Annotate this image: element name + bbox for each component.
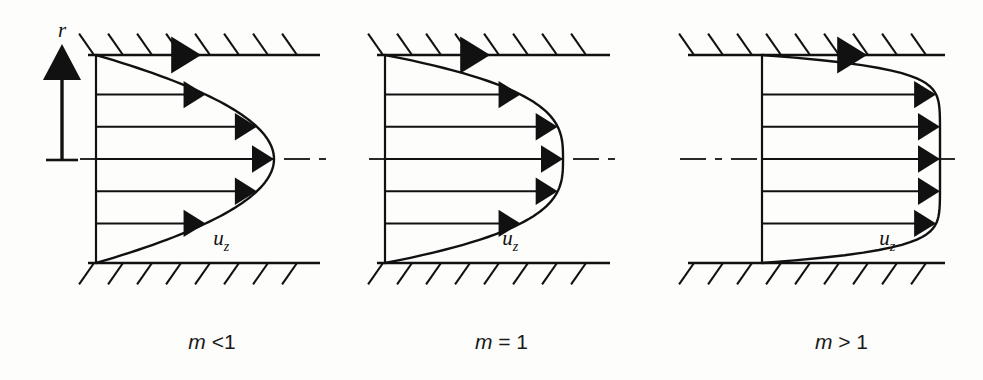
wall-hatch-stroke [766, 34, 781, 55]
ordinate-axis-group: r [43, 18, 81, 160]
wall-hatch-stroke [253, 263, 268, 284]
wall-hatch-stroke [824, 34, 839, 55]
wall-hatch-stroke [484, 34, 499, 55]
wall-hatch-stroke [426, 34, 441, 55]
velocity-vector-arrowhead [536, 178, 558, 205]
wall-hatch-stroke [513, 34, 528, 55]
velocity-vector-arrowhead [536, 113, 558, 140]
wall-hatch-stroke [484, 263, 499, 284]
velocity-vector-arrowhead [252, 145, 274, 172]
velocity-vector-arrowhead [914, 210, 936, 237]
velocity-vector-arrowhead [918, 113, 940, 140]
wall-hatch-stroke [911, 34, 926, 55]
wall-hatch-stroke [224, 34, 239, 55]
wall-hatch-stroke [737, 34, 752, 55]
top-wall [368, 34, 610, 55]
r-axis-arrowhead [43, 44, 81, 80]
wall-hatch-stroke [282, 34, 297, 55]
wall-hatch-stroke [368, 34, 383, 55]
velocity-vector-arrowhead [837, 36, 867, 73]
wall-hatch-stroke [195, 263, 210, 284]
wall-hatch-stroke [108, 34, 123, 55]
wall-hatch-stroke [708, 34, 723, 55]
wall-hatch-stroke [795, 34, 810, 55]
panel-m-1: uz [79, 34, 330, 285]
figure-container: uzuzuz r m <1m = 1m > 1 [0, 0, 983, 380]
wall-hatch-stroke [882, 34, 897, 55]
bottom-wall [79, 263, 320, 284]
wall-hatch-stroke [224, 263, 239, 284]
wall-hatch-stroke [542, 263, 557, 284]
wall-hatch-stroke [513, 263, 528, 284]
velocity-vector-arrowhead [914, 81, 936, 108]
wall-hatch-stroke [737, 263, 752, 284]
wall-hatch-stroke [708, 263, 723, 284]
wall-hatch-stroke [253, 34, 268, 55]
wall-hatch-stroke [853, 263, 868, 284]
wall-hatch-stroke [571, 263, 586, 284]
top-wall [679, 34, 945, 55]
wall-hatch-stroke [108, 263, 123, 284]
bottom-wall [368, 263, 610, 284]
velocity-vector-arrowhead [184, 210, 206, 237]
wall-hatch-stroke [911, 263, 926, 284]
panel-caption-panel-m-gt-1: m > 1 [815, 330, 868, 353]
wall-hatch-stroke [282, 263, 297, 284]
wall-hatch-stroke [679, 263, 694, 284]
wall-hatch-stroke [824, 263, 839, 284]
panel-caption-panel-m-lt-1: m <1 [188, 330, 235, 353]
wall-hatch-stroke [79, 34, 94, 55]
velocity-vector-arrowhead [541, 145, 563, 172]
captions-layer: m <1m = 1m > 1 [188, 330, 868, 353]
wall-hatch-stroke [195, 34, 210, 55]
velocity-vector-arrowhead [171, 36, 201, 73]
wall-hatch-stroke [455, 263, 470, 284]
wall-hatch-stroke [571, 34, 586, 55]
wall-hatch-stroke [368, 263, 383, 284]
wall-hatch-stroke [397, 263, 412, 284]
wall-hatch-stroke [137, 263, 152, 284]
panel-m-1: uz [368, 34, 620, 285]
velocity-vector-arrowhead [918, 145, 940, 172]
panel-m-1: uz [679, 34, 955, 285]
wall-hatch-stroke [397, 34, 412, 55]
bottom-wall [679, 263, 945, 284]
wall-hatch-stroke [426, 263, 441, 284]
wall-hatch-stroke [795, 263, 810, 284]
velocity-label-uz: uz [213, 226, 230, 254]
velocity-label-uz: uz [502, 226, 519, 254]
wall-hatch-stroke [137, 34, 152, 55]
panel-caption-panel-m-eq-1: m = 1 [475, 330, 528, 353]
wall-hatch-stroke [542, 34, 557, 55]
velocity-label-uz: uz [879, 226, 896, 254]
velocity-vector-arrowhead [499, 81, 521, 108]
wall-hatch-stroke [79, 263, 94, 284]
velocity-vector-arrowhead [460, 36, 490, 73]
wall-hatch-stroke [882, 263, 897, 284]
panels-layer: uzuzuz [79, 34, 955, 285]
velocity-vector-arrowhead [918, 178, 940, 205]
wall-hatch-stroke [166, 263, 181, 284]
velocity-vector-arrowhead [184, 81, 206, 108]
velocity-profile-diagram: uzuzuz r m <1m = 1m > 1 [0, 0, 983, 380]
top-wall [79, 34, 320, 55]
r-axis-label: r [58, 18, 67, 42]
wall-hatch-stroke [766, 263, 781, 284]
wall-hatch-stroke [679, 34, 694, 55]
